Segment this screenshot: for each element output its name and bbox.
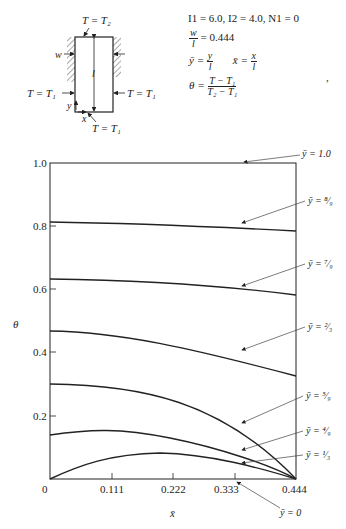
schematic-and-plot-graphics [0,0,346,529]
top-boundary-label: T = T₂ [82,14,111,26]
left-boundary-label: T = T₁ [27,87,56,99]
params-ybar-xbar: ȳ = yl x̄ = xl [189,51,257,72]
w-label: w [55,49,62,60]
curves [50,222,296,479]
annotation-y-1-0: ȳ = 1.0 [302,148,331,159]
y-ticks [50,226,56,416]
x-tick-0-333: 0.333 [214,483,239,495]
trailing-comma: , [326,72,329,83]
curve-y-4-9 [50,430,296,479]
y-tick-1-0: 1.0 [33,157,47,169]
y-tick-0-8: 0.8 [33,220,47,232]
x-tick-0-222: 0.222 [161,483,186,495]
y-axis-label-diagram: y [67,100,71,111]
curve-y-8-9 [50,222,296,231]
annotation-y-5-9: ȳ = ⁵⁄₉ [306,390,331,401]
params-line1: I1 = 6.0, I2 = 4.0, N1 = 0 [188,13,299,24]
annotation-y-8-9: ȳ = ⁸⁄₉ [308,195,333,206]
y-tick-0-4: 0.4 [33,346,47,358]
y-tick-0-2: 0.2 [33,410,47,422]
right-boundary-label: T = T₁ [127,87,156,99]
y-axis-title: θ [13,318,18,330]
x-axis-title: x̄ [170,507,175,519]
params-wl: wl = 0.444 [189,28,234,49]
bottom-boundary-label: T = T₁ [92,122,121,134]
l-label: l [92,68,95,79]
x-axis-label-diagram: x [82,113,86,124]
x-tick-0-444: 0.444 [282,483,307,495]
params-theta: θ = T − T₁T₂ − T₁ [189,76,237,97]
left-wall-hatch [67,37,75,82]
annotation-y-0: ȳ = 0 [280,507,301,518]
annotation-y-2-3: ȳ = ²⁄₃ [308,321,332,332]
x-tick-0: 0 [42,483,48,495]
x-tick-0-111: 0.111 [100,483,124,495]
x-ticks [112,473,235,479]
curve-y-2-3 [50,331,296,376]
curve-y-7-9 [50,279,296,295]
annotation-y-1-3: ȳ = ¹⁄₃ [306,449,330,460]
annotation-y-4-9: ȳ = ⁴⁄₉ [306,425,331,436]
annotation-y-7-9: ȳ = ⁷⁄₉ [308,258,333,269]
right-wall-hatch [113,37,121,77]
y-tick-0-6: 0.6 [33,283,47,295]
